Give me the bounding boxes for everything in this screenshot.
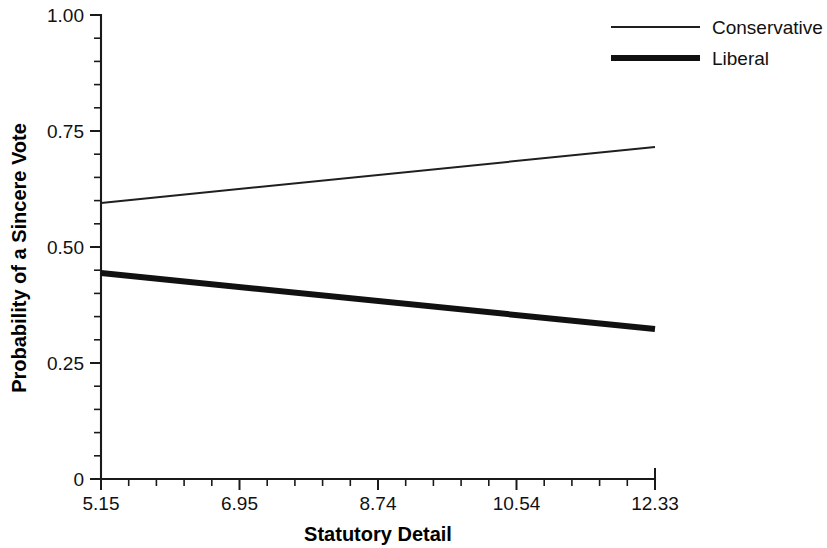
chart-legend: Conservative Liberal (611, 17, 823, 69)
y-tick-label-5: 0 (73, 469, 84, 490)
series-line-liberal (101, 273, 655, 329)
x-axis-title: Statutory Detail (304, 523, 452, 545)
chart-canvas: 1.00 0.75 0.50 0.25 0 5.15 6.95 8.74 10.… (0, 0, 827, 548)
y-tick-label-2: 0.75 (47, 121, 84, 142)
x-tick-label-1: 5.15 (83, 493, 120, 514)
x-tick-label-4: 10.54 (493, 493, 541, 514)
x-axis-end-caps (101, 468, 655, 479)
y-axis-title: Probability of a Sincere Vote (8, 123, 30, 393)
series-line-conservative (101, 147, 655, 203)
data-series-conservative (101, 147, 655, 203)
y-tick-label-1: 1.00 (47, 5, 84, 26)
chart-figure: 1.00 0.75 0.50 0.25 0 5.15 6.95 8.74 10.… (0, 0, 827, 548)
y-tick-label-3: 0.50 (47, 237, 84, 258)
legend-label-conservative: Conservative (712, 17, 823, 38)
legend-label-liberal: Liberal (712, 48, 769, 69)
x-tick-label-5: 12.33 (631, 493, 679, 514)
y-tick-label-4: 0.25 (47, 353, 84, 374)
data-series-liberal (101, 273, 655, 329)
x-tick-label-3: 8.74 (360, 493, 397, 514)
x-tick-label-2: 6.95 (221, 493, 258, 514)
